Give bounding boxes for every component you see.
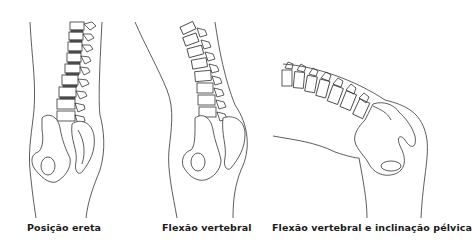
figure-spinal-flexion xyxy=(125,0,255,220)
pelvis xyxy=(182,116,245,181)
pelvis xyxy=(32,115,94,182)
figure-erect-posture xyxy=(0,0,140,220)
caption-flexion-pelvic-tilt: Flexão vertebral e inclinação pélvica xyxy=(272,222,472,233)
caption-erect-posture: Posição ereta xyxy=(27,222,101,233)
spine-erect-illustration xyxy=(0,0,140,220)
figure-flexion-pelvic-tilt xyxy=(255,0,467,220)
vertebrae xyxy=(180,21,227,121)
spine-flexion-illustration xyxy=(125,0,255,220)
spine-flexion-tilt-illustration xyxy=(255,0,467,220)
vertebrae xyxy=(282,62,370,119)
caption-spinal-flexion: Flexão vertebral xyxy=(162,222,252,233)
vertebrae xyxy=(57,22,96,124)
